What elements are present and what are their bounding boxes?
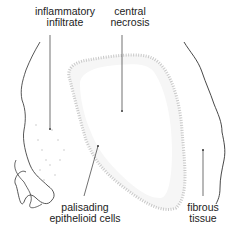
label-palisading-epithelioid-cells: palisading epithelioid cells [40, 202, 130, 224]
label-inflammatory-infiltrate: inflammatory infiltrate [20, 6, 110, 28]
granuloma-drawing [0, 0, 246, 234]
fibrous-tissue-edge [184, 42, 225, 204]
left-tissue-lobe [15, 160, 42, 208]
label-central-necrosis: central necrosis [105, 6, 155, 28]
central-necrosis-area [80, 64, 172, 198]
infiltrate-stipple [35, 124, 64, 180]
left-tissue-outline [15, 42, 54, 204]
label-fibrous-tissue: fibrous tissue [180, 202, 226, 224]
